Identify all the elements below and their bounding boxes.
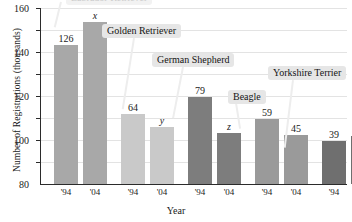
x-tick-label: '04 <box>150 187 174 197</box>
y-axis-tick: 160 <box>36 8 41 9</box>
bar: 39 <box>322 141 346 184</box>
bar: 126 <box>54 45 78 184</box>
x-tick-label: '04 <box>217 187 241 197</box>
y-axis-tick: 20 <box>36 162 41 163</box>
y-axis-tick: 80 <box>36 96 41 97</box>
x-tick-label: '94 <box>255 187 279 197</box>
bar-value-label: 59 <box>262 107 272 118</box>
bar: z <box>217 133 241 184</box>
bar-value-label: 126 <box>59 33 74 44</box>
bar: 79 <box>188 97 212 184</box>
bar-value-label: 79 <box>195 85 205 96</box>
y-tick-label: 160 <box>14 3 29 14</box>
breed-callout-label: Beagle <box>228 90 266 104</box>
y-tick-label: 100 <box>14 135 29 146</box>
x-axis-line <box>40 184 347 185</box>
bar: y <box>150 127 174 184</box>
x-tick-label: '94 <box>188 187 212 197</box>
bar-value-label: z <box>227 121 231 132</box>
x-tick-label: '04 <box>83 187 107 197</box>
bar-value-label: 45 <box>291 123 301 134</box>
bar-value-label: x <box>93 10 97 21</box>
bar: 64 <box>121 114 145 184</box>
bar-value-label: y <box>160 115 164 126</box>
y-axis-tick: 120 <box>36 52 41 53</box>
x-tick-label: '94 <box>121 187 145 197</box>
y-axis-tick: 100 <box>36 74 41 75</box>
y-axis-tick: 40 <box>36 140 41 141</box>
y-axis-tick: 60 <box>36 118 41 119</box>
x-tick-label: '94 <box>322 187 346 197</box>
y-tick-label: 140 <box>14 47 29 58</box>
breed-callout-label: Labrador Retriever <box>66 0 152 5</box>
x-tick-label: '94 <box>54 187 78 197</box>
y-axis-tick: 140 <box>36 30 41 31</box>
y-tick-label: 80 <box>19 179 29 190</box>
bar-value-label: 64 <box>128 102 138 113</box>
bar: 45 <box>284 135 308 185</box>
x-tick-label: '04 <box>284 187 308 197</box>
bar: x <box>83 22 107 184</box>
bar: 59 <box>255 119 279 184</box>
breed-callout-label: German Shepherd <box>152 53 234 67</box>
breed-callout-label: Yorkshire Terrier <box>268 66 346 80</box>
breed-callout-label: Golden Retriever <box>102 24 181 38</box>
x-axis-title: Year <box>0 205 352 216</box>
gridline <box>41 8 347 9</box>
plot-area: 20406080100120140160 126x64y79z59453944 <box>40 8 347 185</box>
y-tick-label: 120 <box>14 91 29 102</box>
bar-chart: Number of Registrations (thousands) 2040… <box>0 0 352 222</box>
bar-value-label: 39 <box>329 129 339 140</box>
